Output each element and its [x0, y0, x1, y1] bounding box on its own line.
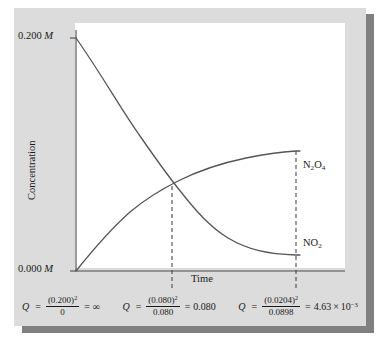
- equation-result-power: 10−3: [341, 301, 358, 312]
- equation-equals: =: [35, 301, 41, 312]
- equation-symbol: Q: [238, 301, 245, 312]
- equation-numerator: (0.080)2: [146, 295, 179, 307]
- equation-denominator: 0.080: [151, 307, 175, 318]
- equation-result-equals: =: [84, 301, 90, 312]
- equation-row: Q = (0.200)2 0 = ∞ Q = (0.080)2 0.080 = …: [22, 292, 358, 320]
- equation-q-initial: Q = (0.200)2 0 = ∞: [22, 295, 100, 318]
- equation-equals: =: [252, 301, 258, 312]
- equation-symbol: Q: [122, 301, 129, 312]
- equilibrium-figure: 0.200 M 0.000 M Concentration Time N2O4 …: [0, 0, 382, 345]
- equation-q-intermediate: Q = (0.080)2 0.080 = 0.080: [122, 295, 215, 318]
- equation-result-mantissa: 4.63: [314, 301, 332, 312]
- equation-q-equilibrium: Q = (0.0204)2 0.0898 = 4.63 × 10−3: [238, 295, 358, 318]
- y-axis-top-tick-label: 0.200 M: [18, 31, 53, 42]
- equation-result: ∞: [93, 301, 100, 312]
- equation-equals: =: [136, 301, 142, 312]
- curve-no2: [76, 38, 300, 255]
- equation-fraction: (0.0204)2 0.0898: [262, 295, 300, 318]
- equation-result-equals: =: [305, 301, 311, 312]
- y-axis-title: Concentration: [27, 110, 38, 230]
- equation-numerator: (0.200)2: [46, 295, 79, 307]
- equation-result-times: ×: [333, 301, 339, 312]
- series-label-no2: NO2: [303, 238, 322, 250]
- equation-denominator: 0.0898: [267, 307, 296, 318]
- series-label-n2o4: N2O4: [303, 160, 325, 172]
- equation-symbol: Q: [22, 301, 29, 312]
- equation-numerator: (0.0204)2: [262, 295, 300, 307]
- equation-denominator: 0: [58, 307, 67, 318]
- x-axis-title: Time: [191, 274, 213, 285]
- equation-fraction: (0.080)2 0.080: [146, 295, 179, 318]
- y-axis-bottom-tick-label: 0.000 M: [18, 264, 53, 275]
- curve-n2o4: [76, 151, 300, 271]
- equation-result: 0.080: [193, 301, 216, 312]
- equation-fraction: (0.200)2 0: [46, 295, 79, 318]
- equation-result-equals: =: [185, 301, 191, 312]
